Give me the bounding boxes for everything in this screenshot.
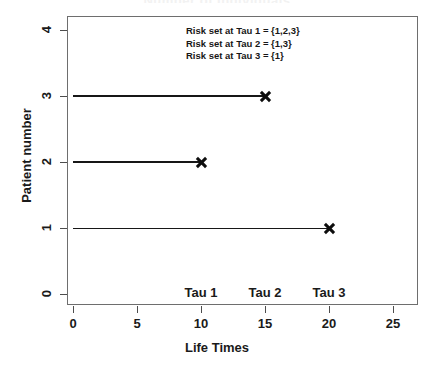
x-axis-tick-label: 10	[181, 316, 221, 331]
x-axis-title: Life Times	[0, 340, 434, 355]
y-axis-tick	[60, 228, 67, 229]
y-axis-tick	[60, 30, 67, 31]
patient-lifetime-line	[73, 161, 201, 163]
event-x-marker	[323, 222, 336, 235]
chart-title: Number of Individuals	[0, 0, 434, 3]
risk-set-annotation-line: Risk set at Tau 1 = {1,2,3}	[186, 25, 300, 38]
event-x-marker	[259, 90, 272, 103]
y-axis-tick-label: 1	[39, 218, 54, 238]
x-axis-tick-label: 25	[373, 316, 413, 331]
y-axis-tick-label: 2	[39, 152, 54, 172]
x-axis-tick	[201, 306, 202, 313]
tau-time-label: Tau 1	[171, 285, 231, 300]
patient-lifetime-line	[73, 228, 329, 229]
survival-risk-set-chart: Number of Individuals 051015202501234 Ta…	[0, 0, 434, 368]
y-axis-tick-label: 0	[39, 284, 54, 304]
x-axis-tick	[329, 306, 330, 313]
y-axis-tick-label: 3	[39, 86, 54, 106]
risk-set-annotation: Risk set at Tau 1 = {1,2,3}Risk set at T…	[186, 25, 300, 63]
event-x-marker	[195, 156, 208, 169]
y-axis-title: Patient number	[19, 76, 34, 236]
x-axis-tick	[73, 306, 74, 313]
y-axis-tick	[60, 162, 67, 163]
y-axis-tick	[60, 96, 67, 97]
x-axis-tick-label: 0	[53, 316, 93, 331]
tau-time-label: Tau 2	[235, 285, 295, 300]
tau-time-label: Tau 3	[299, 285, 359, 300]
x-axis-tick-label: 15	[245, 316, 285, 331]
y-axis-tick-label: 4	[39, 20, 54, 40]
y-axis-tick	[60, 294, 67, 295]
x-axis-tick-label: 5	[117, 316, 157, 331]
x-axis-tick-label: 20	[309, 316, 349, 331]
x-axis-tick	[393, 306, 394, 313]
risk-set-annotation-line: Risk set at Tau 2 = {1,3}	[186, 38, 300, 51]
patient-lifetime-line	[73, 95, 265, 98]
risk-set-annotation-line: Risk set at Tau 3 = {1}	[186, 50, 300, 63]
x-axis-tick	[265, 306, 266, 313]
x-axis-tick	[137, 306, 138, 313]
